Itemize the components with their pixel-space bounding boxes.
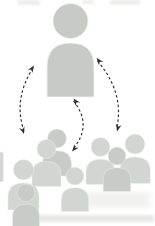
center-bidirectional-arrow: [70, 97, 83, 154]
arrowhead-icon: [94, 56, 103, 65]
leader-person-icon: [47, 4, 94, 98]
left-bidirectional-arrow: [19, 64, 36, 135]
arrowhead-icon: [71, 97, 80, 106]
right-arrow-curve: [98, 61, 119, 129]
right-bidirectional-arrow: [94, 56, 121, 132]
leader-head: [53, 4, 88, 39]
arrowhead-icon: [19, 126, 27, 135]
arrowhead-icon: [70, 144, 79, 153]
diagram-canvas: [0, 0, 155, 226]
arrowhead-icon: [28, 64, 37, 73]
left-arrow-curve: [20, 68, 33, 131]
center-arrow-curve: [73, 101, 83, 149]
leader-body: [47, 43, 94, 97]
clipped-person-edge: [0, 152, 4, 182]
people-communication-diagram: [0, 0, 155, 226]
